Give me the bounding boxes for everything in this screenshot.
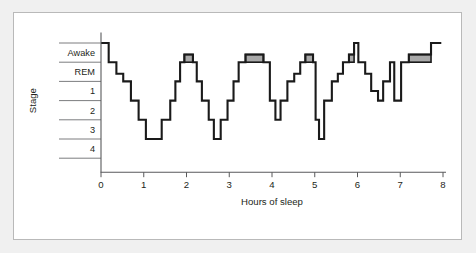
x-tick-label: 4 — [269, 179, 275, 190]
x-axis-title: Hours of sleep — [241, 196, 303, 207]
x-tick-label: 2 — [184, 179, 189, 190]
page-root: AwakeREM1234 012345678 Hours of sleep St… — [0, 0, 476, 253]
x-tick-label: 6 — [355, 179, 360, 190]
x-axis-ticks: 012345678 — [98, 172, 445, 190]
rem-episode-block — [409, 55, 431, 63]
rem-episode-block — [245, 55, 263, 63]
figure-panel: AwakeREM1234 012345678 Hours of sleep St… — [13, 12, 462, 240]
x-tick-label: 1 — [141, 179, 146, 190]
y-tick-label: 2 — [90, 106, 95, 116]
hypnogram-chart: AwakeREM1234 012345678 Hours of sleep St… — [14, 13, 463, 241]
x-tick-label: 5 — [312, 179, 317, 190]
y-tick-label: 4 — [90, 144, 95, 154]
x-tick-label: 0 — [98, 179, 103, 190]
y-tick-label: REM — [75, 67, 95, 77]
rem-episode-block — [184, 55, 193, 63]
y-tick-label: Awake — [68, 48, 95, 58]
x-tick-label: 3 — [227, 179, 232, 190]
y-axis-title: Stage — [27, 88, 38, 113]
chart-svg: AwakeREM1234 012345678 Hours of sleep St… — [14, 13, 463, 241]
y-tick-label: 1 — [90, 86, 95, 96]
x-tick-label: 8 — [440, 179, 445, 190]
rem-episode-blocks — [184, 55, 431, 63]
gridlines — [59, 43, 101, 158]
sleep-stage-trace — [101, 43, 441, 139]
x-tick-label: 7 — [398, 179, 403, 190]
rem-episode-block — [305, 55, 313, 63]
y-tick-label: 3 — [90, 125, 95, 135]
